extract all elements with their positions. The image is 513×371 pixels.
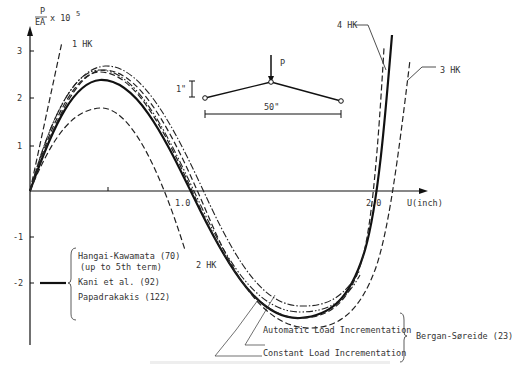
x-axis-label: U(inch) bbox=[407, 198, 443, 208]
svg-text:Papadrakakis (122): Papadrakakis (122) bbox=[78, 292, 170, 302]
svg-text:EA: EA bbox=[35, 17, 45, 27]
legend-bergan: Automatic Load Incrementation Constant L… bbox=[215, 295, 513, 362]
chart-canvas: 3 2 1 -1 -2 P EA x 10 5 1.0 2.0 U(inch) … bbox=[0, 0, 513, 371]
svg-text:50": 50" bbox=[264, 102, 279, 112]
svg-text:5: 5 bbox=[76, 10, 80, 18]
y-tick-3: 3 bbox=[17, 46, 22, 56]
y-axis-label: P EA x 10 5 bbox=[35, 6, 80, 27]
svg-text:Automatic Load Incrementation: Automatic Load Incrementation bbox=[263, 325, 411, 335]
inset-truss-diagram: P 1" 50" bbox=[176, 55, 343, 118]
y-tick-minus-2: -2 bbox=[13, 278, 23, 288]
legend-left: Hangai-Kawamata (70) (up to 5th term) Ka… bbox=[40, 248, 180, 320]
svg-text:P: P bbox=[280, 58, 285, 68]
series-1hk bbox=[30, 42, 62, 191]
figure-caption-faint bbox=[150, 361, 390, 364]
svg-text:Kani et al. (92): Kani et al. (92) bbox=[78, 277, 160, 287]
svg-text:Bergan-Søreide (23): Bergan-Søreide (23) bbox=[416, 331, 513, 341]
y-tick-2: 2 bbox=[17, 93, 22, 103]
series-3hk bbox=[30, 60, 410, 328]
label-2hk: 2 HK bbox=[196, 260, 217, 270]
label-1hk: 1 HK bbox=[72, 39, 93, 49]
y-tick-minus-1: -1 bbox=[13, 232, 23, 242]
svg-text:Hangai-Kawamata (70): Hangai-Kawamata (70) bbox=[78, 251, 180, 261]
svg-text:x 10: x 10 bbox=[50, 13, 70, 23]
x-axis: 1.0 2.0 U(inch) bbox=[30, 187, 443, 208]
svg-text:P: P bbox=[40, 6, 45, 16]
svg-text:(up to 5th term): (up to 5th term) bbox=[80, 262, 162, 272]
y-tick-1: 1 bbox=[17, 141, 22, 151]
series-exact-solid bbox=[30, 35, 392, 318]
x-tick-1: 1.0 bbox=[175, 198, 190, 208]
svg-text:Constant Load Incrementation: Constant Load Incrementation bbox=[263, 348, 406, 358]
label-3hk: 3 HK bbox=[440, 65, 461, 75]
svg-text:1": 1" bbox=[176, 84, 186, 94]
